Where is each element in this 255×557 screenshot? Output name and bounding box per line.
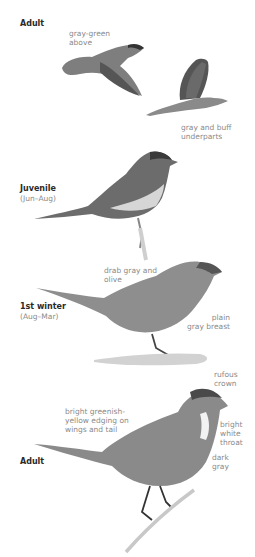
section-heading-first-winter: 1st winter bbox=[20, 302, 66, 312]
annotation-drab-gray-olive: drab gray and olive bbox=[104, 266, 157, 284]
annotation-gray-buff-underparts: gray and buff underparts bbox=[181, 123, 231, 141]
annotation-white-throat: bright white throat bbox=[220, 420, 243, 447]
annotation-rufous-crown: rufous crown bbox=[214, 370, 238, 388]
adult-bird-illustration bbox=[34, 389, 228, 552]
flying-bird-upper-illustration bbox=[62, 44, 144, 96]
section-heading-juvenile: Juvenile bbox=[20, 184, 56, 194]
section-heading-adult-perched: Adult bbox=[20, 457, 44, 467]
annotation-dark-gray: dark gray bbox=[212, 453, 229, 471]
section-heading-adult-flight: Adult bbox=[20, 19, 44, 29]
annotation-gray-green-above: gray-green above bbox=[69, 29, 110, 47]
section-subheading-first-winter: (Aug–Mar) bbox=[20, 312, 58, 321]
section-subheading-juvenile: (Jun–Aug) bbox=[20, 194, 56, 203]
annotation-greenish-yellow-edging: bright greenish- yellow edging on wings … bbox=[65, 407, 129, 434]
annotation-plain-gray-breast: plain gray breast bbox=[180, 313, 230, 331]
juvenile-bird-illustration bbox=[34, 151, 178, 260]
flying-bird-lower-illustration bbox=[146, 59, 228, 116]
